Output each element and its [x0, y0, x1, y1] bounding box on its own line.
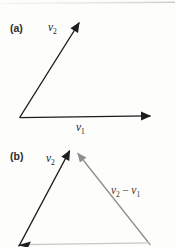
vector-baseline-panel-b	[26, 243, 150, 245]
panel-a: (a) v2 v1	[10, 21, 150, 136]
figure-canvas: (a) v2 v1 (b)	[0, 0, 175, 247]
vector-v2-panel-b	[19, 151, 70, 246]
vector-v2-minus-v1-panel-b	[78, 154, 150, 245]
page-edge-line	[0, 2, 175, 3]
panel-b: (b) v2 v2−v1	[10, 150, 150, 247]
label-v2-panel-a: v2	[48, 21, 57, 36]
panel-a-tag: (a)	[10, 22, 23, 34]
vector-diagram-figure: (a) v2 v1 (b)	[0, 0, 175, 247]
label-v1-panel-a: v1	[76, 121, 85, 136]
label-v2-panel-b: v2	[46, 152, 55, 167]
vector-v2-panel-a	[20, 23, 79, 117]
vector-v1-panel-a	[20, 116, 150, 118]
panel-b-tag: (b)	[10, 150, 23, 162]
label-v2-minus-v1-panel-b: v2−v1	[111, 184, 140, 199]
